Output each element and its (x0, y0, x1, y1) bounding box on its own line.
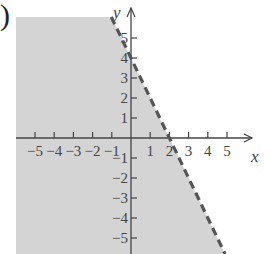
x-tick-label: −3 (65, 143, 81, 159)
x-tick-label: 4 (204, 143, 212, 159)
y-tick-label: −4 (112, 210, 128, 226)
y-tick-label: −2 (112, 170, 128, 186)
y-tick-label: 1 (121, 110, 129, 126)
x-tick-label: −2 (85, 143, 101, 159)
problem-label-paren: ) (0, 0, 10, 32)
x-tick-label: 1 (146, 143, 154, 159)
inequality-graph: ) xy−5−4−3−2−11234554321−1−2−3−4−5 (0, 0, 269, 254)
y-tick-label: −5 (112, 230, 128, 246)
y-tick-label: 3 (121, 70, 129, 86)
x-tick-label: −5 (27, 143, 43, 159)
x-tick-label: 3 (185, 143, 193, 159)
x-axis-label: x (250, 147, 259, 166)
x-tick-label: 5 (223, 143, 231, 159)
y-tick-label: −3 (112, 190, 128, 206)
x-tick-label: 2 (166, 143, 174, 159)
graph-canvas: xy−5−4−3−2−11234554321−1−2−3−4−5 (0, 0, 269, 254)
y-tick-label: 2 (121, 90, 129, 106)
x-tick-label: −4 (46, 143, 62, 159)
y-tick-label: −1 (112, 150, 128, 166)
y-tick-label: 4 (121, 50, 129, 66)
